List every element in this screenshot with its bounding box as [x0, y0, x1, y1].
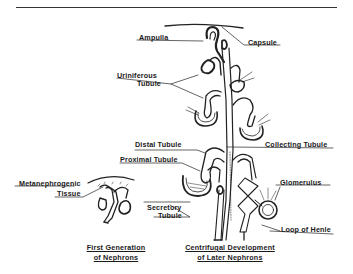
label-metanephrogenic-line2: Tissue — [57, 190, 81, 198]
caption-first-generation-line1: First Generation — [78, 243, 154, 253]
label-collecting-tubule: Collecting Tubule — [265, 141, 327, 149]
caption-first-generation: First Generation of Nephrons — [78, 243, 154, 263]
label-ampulla: Ampulla — [139, 34, 168, 42]
label-proximal-tubule: Proximal Tubule — [120, 156, 178, 164]
caption-first-generation-line2: of Nephrons — [78, 253, 154, 263]
label-glomerulus: Glomerulus — [280, 179, 321, 187]
label-uriniferous-tubule-line2: Tubule — [137, 80, 161, 88]
label-metanephrogenic-line1: Metanephrogenic — [19, 180, 81, 188]
capsule-arc — [165, 24, 243, 28]
label-capsule: Capsule — [248, 39, 277, 47]
caption-centrifugal-line1: Centrifugal Development — [180, 243, 280, 253]
label-secretory-tubule-line2: Tubule — [158, 212, 182, 220]
caption-centrifugal-line2: of Later Nephrons — [180, 253, 280, 263]
nephron-development-diagram: Ampulla Capsule Uriniferous Tubule Dista… — [0, 0, 353, 274]
label-distal-tubule: Distal Tubule — [135, 141, 182, 149]
caption-centrifugal-development: Centrifugal Development of Later Nephron… — [180, 243, 280, 263]
label-loop-of-henle: Loop of Henle — [281, 226, 331, 234]
